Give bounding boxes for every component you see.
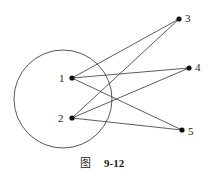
edge-2-5 [72,118,182,130]
node-label-5: 5 [188,125,194,137]
edge-1-4 [72,68,189,78]
node-label-1: 1 [59,72,65,84]
node-1 [69,75,74,80]
edges [72,19,189,130]
graph-diagram: 1 2 3 4 5 图 9-12 [0,0,214,179]
enclosing-circle [14,50,112,148]
edge-2-4 [72,68,189,118]
node-label-4: 4 [195,61,201,73]
caption-number: 9-12 [104,157,125,169]
node-2 [69,115,74,120]
edge-1-5 [72,78,182,130]
node-label-2: 2 [58,112,64,124]
node-3 [176,16,181,21]
node-label-3: 3 [185,12,191,24]
node-5 [179,127,184,132]
caption-prefix: 图 [80,157,91,170]
node-4 [186,65,191,70]
edge-1-3 [72,19,179,78]
